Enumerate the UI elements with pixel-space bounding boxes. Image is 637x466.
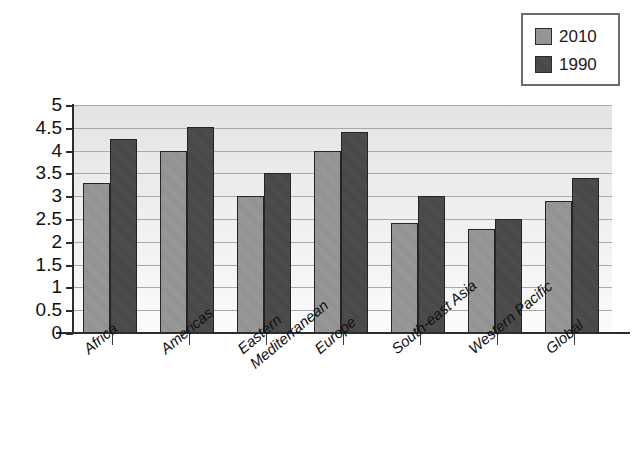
bar [545, 201, 572, 333]
y-axis-tick-mark [66, 265, 73, 267]
y-axis-tick-label: 2 [0, 232, 62, 251]
bar [341, 132, 368, 333]
legend-item: 2010 [523, 22, 618, 50]
y-axis-tick-mark [66, 310, 73, 312]
y-axis-tick-label: 1 [0, 277, 62, 296]
legend-swatch-1990 [535, 56, 552, 73]
y-axis-tick-label: 5 [0, 95, 62, 114]
y-axis-tick-mark [66, 128, 73, 130]
legend-swatch-2010 [535, 28, 552, 45]
bar [83, 183, 110, 333]
y-axis-tick-mark [66, 287, 73, 289]
y-axis-tick-label: 4.5 [0, 118, 62, 137]
legend-label-2010: 2010 [559, 28, 597, 45]
y-axis-tick-mark [66, 151, 73, 153]
gridline [73, 105, 612, 106]
y-axis-tick-label: 4 [0, 141, 62, 160]
y-axis-tick-mark [66, 242, 73, 244]
bar [160, 151, 187, 333]
legend: 2010 1990 [521, 13, 620, 86]
y-axis-tick-mark [66, 219, 73, 221]
bar [110, 139, 137, 333]
bar [237, 196, 264, 333]
gridline [73, 128, 612, 129]
legend-label-1990: 1990 [559, 56, 597, 73]
y-axis-tick-mark [66, 173, 73, 175]
bar [187, 127, 214, 333]
y-axis-tick-label: 2.5 [0, 209, 62, 228]
y-axis-tick-label: 0.5 [0, 300, 62, 319]
y-axis-tick-mark [66, 196, 73, 198]
y-axis-tick-label: 1.5 [0, 255, 62, 274]
y-axis-tick-mark [66, 333, 73, 335]
y-axis-tick-mark [66, 105, 73, 107]
y-axis-tick-label: 3 [0, 186, 62, 205]
legend-item: 1990 [523, 50, 618, 78]
bar-chart: 54.543.532.521.510.50 AfricaAmericasEast… [0, 0, 637, 466]
y-axis-tick-label: 0 [0, 323, 62, 342]
y-axis-tick-label: 3.5 [0, 163, 62, 182]
bar [391, 223, 418, 333]
bar [572, 178, 599, 333]
